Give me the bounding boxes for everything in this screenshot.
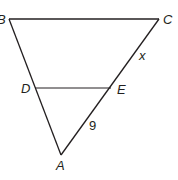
- vertex-label-a: A: [55, 158, 65, 173]
- segment-ba: [9, 19, 61, 155]
- triangle-diagram: B C D E A x 9: [0, 0, 178, 180]
- vertex-label-d: D: [21, 81, 30, 96]
- segment-label-ae: 9: [89, 118, 96, 133]
- vertex-label-c: C: [163, 12, 173, 27]
- vertex-label-b: B: [0, 12, 6, 27]
- segment-ca: [61, 19, 159, 155]
- vertex-label-e: E: [117, 82, 126, 97]
- segment-label-ec: x: [138, 48, 146, 63]
